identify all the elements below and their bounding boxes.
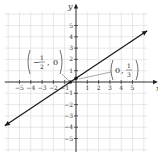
y-tick-label: −2 xyxy=(64,101,73,108)
y-axis-arrow-icon xyxy=(74,3,78,8)
x-tick-label: 3 xyxy=(108,84,112,91)
x-tick-label: −4 xyxy=(26,84,35,91)
y-tick-label: −4 xyxy=(64,123,73,130)
svg-text:0: 0 xyxy=(53,58,58,67)
axes: xy xyxy=(5,2,158,152)
svg-text:,: , xyxy=(47,58,50,67)
x-tick-label: −5 xyxy=(15,84,24,91)
x-tick-label: −2 xyxy=(49,84,58,91)
svg-text:,: , xyxy=(121,66,124,75)
x-axis-label: x xyxy=(156,84,158,93)
x-tick-label: 5 xyxy=(131,84,135,91)
x-tick-label: 4 xyxy=(119,84,123,91)
x-tick-label: 2 xyxy=(97,84,101,91)
y-tick-label: 5 xyxy=(69,22,73,29)
y-tick-label: −1 xyxy=(64,89,73,96)
svg-text:2: 2 xyxy=(40,63,44,70)
x-tick-label: 1 xyxy=(85,84,89,91)
svg-text:3: 3 xyxy=(127,71,131,78)
x-tick-label: −3 xyxy=(38,84,47,91)
data-point xyxy=(74,76,78,80)
y-axis-label: y xyxy=(67,2,73,11)
y-tick-label: 4 xyxy=(69,33,73,40)
y-tick-label: −3 xyxy=(64,112,73,119)
y-tick-label: −5 xyxy=(64,135,73,142)
point-annotations: −12,00,13 xyxy=(28,50,138,82)
svg-text:0: 0 xyxy=(115,66,120,75)
y-tick-label: 1 xyxy=(69,67,73,74)
svg-text:−: − xyxy=(33,58,40,67)
annotation-neg-half: −12,0 xyxy=(28,50,70,82)
coordinate-plane: xy −5−4−3−2−112345−5−4−3−2−112345 −12,00… xyxy=(0,0,158,152)
y-tick-label: 2 xyxy=(69,55,73,62)
svg-text:1: 1 xyxy=(40,54,44,61)
y-tick-label: 3 xyxy=(69,44,73,51)
svg-text:1: 1 xyxy=(127,62,131,69)
tick-marks: −5−4−3−2−112345−5−4−3−2−112345 xyxy=(15,22,135,142)
